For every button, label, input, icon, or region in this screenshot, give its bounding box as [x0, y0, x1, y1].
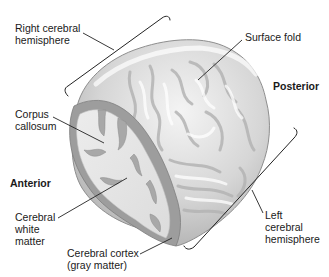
label-anterior: Anterior	[10, 177, 51, 189]
label-right-cerebral-hemisphere: Right cerebral hemisphere	[15, 22, 80, 46]
leader-cortex	[140, 238, 172, 254]
brain-diagram: Right cerebral hemisphere Surface fold P…	[0, 0, 329, 277]
label-corpus-callosum: Corpus callosum	[15, 108, 56, 132]
label-posterior: Posterior	[273, 80, 319, 92]
label-cerebral-cortex: Cerebral cortex (gray matter)	[67, 247, 139, 271]
leader-left-hemisphere	[252, 190, 263, 213]
leader-right-hemisphere	[83, 33, 114, 50]
label-cerebral-white-matter: Cerebral white matter	[15, 211, 55, 247]
label-surface-fold: Surface fold	[245, 31, 301, 43]
label-left-cerebral-hemisphere: Left cerebral hemisphere	[265, 209, 320, 245]
